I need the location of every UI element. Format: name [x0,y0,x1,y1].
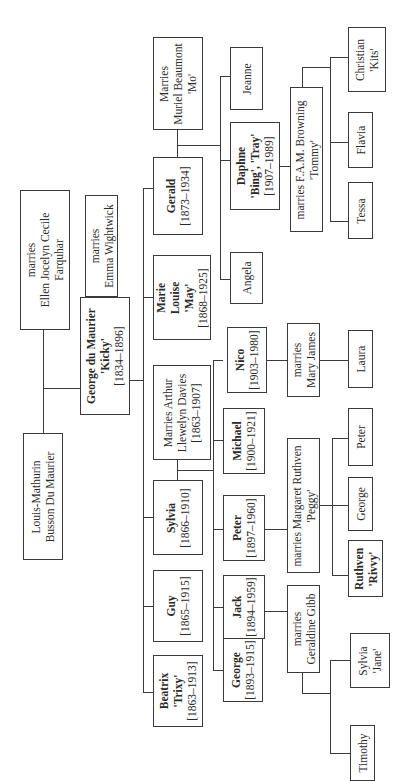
person-timothy: Timothy [350,725,375,781]
connector [177,145,220,146]
dates: [1863–1913] [185,661,199,720]
connector [330,660,350,661]
connector [332,438,333,575]
connector [220,160,230,161]
name-line: Gerald [164,166,178,225]
person-louis-mathurin: Louis-MathurinBusson Du Maurier [23,433,63,560]
name-line: Sylvia [164,488,178,547]
dates: [1894–1959] [244,577,258,636]
connector [213,440,223,441]
name-line: Marries Arthur [161,373,175,451]
connector [177,130,178,157]
person-guy: Guy[1865–1915] [153,570,203,642]
name-line: 'Peggy' [304,445,318,566]
person-michael: Michael[1900–1921] [223,408,265,474]
name-line: Louise [168,268,182,327]
name-line: George [354,487,368,521]
name-line: Peter [230,498,244,557]
connector [320,360,348,361]
connector [177,470,213,471]
dates: [1868–1925] [196,268,210,327]
name-line: 'Bing', 'Tray' [248,134,262,199]
name-line: marries [290,593,304,664]
person-christian: Christian'Kits' [348,27,386,92]
name-line: Guy [164,576,178,635]
connector [213,607,223,608]
connector [43,330,44,433]
name-line: Timothy [356,733,370,772]
connector [320,505,332,506]
dates: [1863–1907] [189,373,203,451]
name-line: Angela [240,261,254,294]
connector [302,67,330,68]
person-laura: Laura [348,330,373,388]
connector [330,57,348,58]
person-george-llewelyn-davies: George[1893–1915] [223,638,263,702]
name-line: Daphne [234,134,248,199]
connector [43,388,80,389]
dates: [1903–1980] [247,330,261,389]
name-line: 'Kicky' [98,308,112,404]
name-line: Christian [353,38,367,80]
connector [143,606,153,607]
name-line: Jack [230,577,244,636]
spouse-emma-wightwick: marriesEmma Wightwick [85,195,118,297]
connector [332,505,348,506]
spouse-mary-james: marriesMary James [287,323,320,397]
name-line: marries [290,332,304,388]
person-beatrix: Beatrix'Trixy'[1863–1913] [153,655,203,727]
name-line: Sylvia [356,646,370,675]
spouse-arthur-llewelyn-davies: Marries ArthurLlewelyn Davies[1863–1907] [153,365,211,460]
dates: [1897–1960] [244,498,258,557]
name-line: 'Trixy' [171,661,185,720]
person-daphne: Daphne'Bing', 'Tray'[1907–1989] [230,122,280,210]
name-line: Llewelyn Davies [175,373,189,451]
name-line: George du Maurier [84,308,98,404]
connector [213,529,223,530]
name-line: Louis-Mathurin [29,451,43,542]
spouse-geraldine-gibb: marriesGeraldine Gibb [287,585,320,673]
connector [280,166,290,167]
person-peter-llewelyn-davies: Peter[1897–1960] [223,495,265,561]
name-line: 'Mo' [185,43,199,124]
spouse-muriel-beaumont: MarriesMuriel Beaumont'Mo' [153,37,203,130]
name-line: Flavia [354,126,368,155]
connector [213,360,223,361]
connector [302,673,303,693]
connector [143,692,153,693]
connector [220,76,221,279]
person-jack: Jack[1894–1959] [223,575,265,639]
connector [332,438,348,439]
dates: [1866–1910] [178,488,192,547]
name-line: marries F.A.M. Browning [293,100,307,219]
name-line: Muriel Beaumont [171,43,185,124]
name-line: 'Rivvy' [366,547,380,589]
name-line: George [229,640,243,699]
dates: [1900–1921] [244,411,258,470]
name-line: Busson Du Maurier [43,451,57,542]
person-peter-ruthven: Peter [348,408,373,466]
name-line: 'Kits' [367,38,381,80]
connector [332,575,348,576]
connector [213,670,223,671]
name-line: marries [88,204,102,287]
name-line: marries [24,213,38,308]
dates: [1865–1915] [178,576,192,635]
connector [265,529,287,530]
connector [143,297,153,298]
name-line: 'May' [182,268,196,327]
name-line: Laura [354,346,368,373]
name-line: Michael [230,411,244,470]
name-line: Tessa [354,198,368,223]
person-sylvia-jane: Sylvia'Jane' [350,633,390,688]
person-nico: Nico[1903–1980] [227,327,267,393]
connector [302,67,303,87]
connector [330,221,348,222]
name-line: 'Tommy' [307,100,321,219]
spouse-margaret-ruthven: marries Margaret Ruthven'Peggy' [287,438,320,573]
connector [143,517,153,518]
name-line: Mary James [304,332,318,388]
person-angela: Angela [230,252,263,304]
name-line: Ellen Jocelyn Cecile [38,213,52,308]
person-jeanne: Jeanne [230,47,263,110]
